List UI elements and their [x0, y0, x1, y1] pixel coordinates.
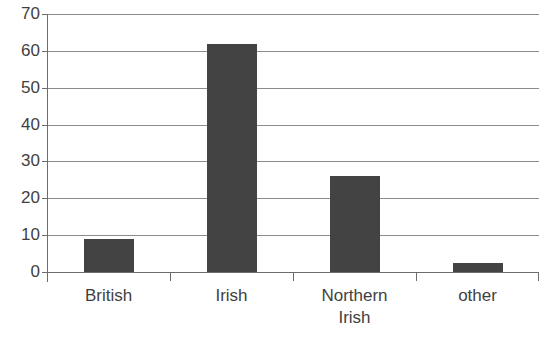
- bar-irish: [207, 44, 257, 273]
- y-axis-tick: [42, 198, 48, 199]
- y-axis-tick-label: 60: [0, 42, 40, 59]
- y-axis-tick-label: 40: [0, 116, 40, 133]
- x-axis-tick: [47, 272, 48, 281]
- bar-british: [84, 239, 134, 272]
- bar-northern-irish: [330, 176, 380, 272]
- y-axis-tick-label: 10: [0, 226, 40, 243]
- x-axis-tick-label-line: British: [47, 285, 170, 307]
- y-axis-tick-label: 50: [0, 79, 40, 96]
- x-axis-tick-label: NorthernIrish: [293, 285, 416, 329]
- x-axis-labels: BritishIrishNorthernIrishother: [47, 285, 539, 343]
- x-axis-tick: [416, 272, 417, 281]
- bar-other: [453, 263, 503, 272]
- x-axis-tick: [170, 272, 171, 281]
- y-axis-tick: [42, 88, 48, 89]
- chart-title-remnant: [22, 0, 242, 3]
- x-axis-ticks: [47, 272, 539, 282]
- y-axis-labels: 010203040506070: [0, 0, 40, 345]
- y-axis-tick-label: 70: [0, 5, 40, 22]
- x-axis-tick-label-line: Irish: [293, 307, 416, 329]
- y-axis-tick: [42, 125, 48, 126]
- x-axis-tick-label-line: Northern: [293, 285, 416, 307]
- plot-area: [47, 14, 539, 272]
- x-axis-tick-label: other: [416, 285, 539, 307]
- y-axis-tick-label: 20: [0, 189, 40, 206]
- y-axis-tick: [42, 14, 48, 15]
- bar-chart: 010203040506070 BritishIrishNorthernIris…: [0, 0, 544, 345]
- x-axis-tick-label-line: other: [416, 285, 539, 307]
- y-axis-tick-label: 0: [0, 263, 40, 280]
- x-axis-tick-label: Irish: [170, 285, 293, 307]
- y-axis-tick: [42, 161, 48, 162]
- y-axis-tick: [42, 272, 48, 273]
- x-axis-tick: [538, 272, 539, 281]
- x-axis-tick-label: British: [47, 285, 170, 307]
- bars: [47, 14, 539, 272]
- x-axis-tick-label-line: Irish: [170, 285, 293, 307]
- y-axis-tick: [42, 235, 48, 236]
- y-axis-tick-label: 30: [0, 152, 40, 169]
- x-axis-tick: [293, 272, 294, 281]
- y-axis-tick: [42, 51, 48, 52]
